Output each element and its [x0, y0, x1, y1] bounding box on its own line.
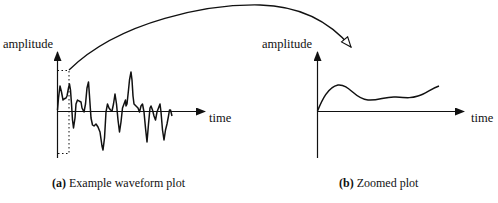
caption-a-tag: (a)	[52, 176, 66, 190]
caption-a: (a) Example waveform plot	[52, 176, 185, 191]
caption-a-text: Example waveform plot	[69, 176, 185, 190]
figure-canvas	[0, 0, 498, 203]
caption-b: (b) Zoomed plot	[339, 176, 418, 191]
right-x-axis-label: time	[471, 111, 493, 126]
left-x-axis-label: time	[209, 111, 231, 126]
caption-b-tag: (b)	[339, 176, 354, 190]
caption-b-text: Zoomed plot	[357, 176, 419, 190]
right-y-axis-label: amplitude	[262, 37, 312, 52]
left-y-axis-label: amplitude	[3, 37, 53, 52]
zoomed-waveform-line	[318, 85, 440, 111]
